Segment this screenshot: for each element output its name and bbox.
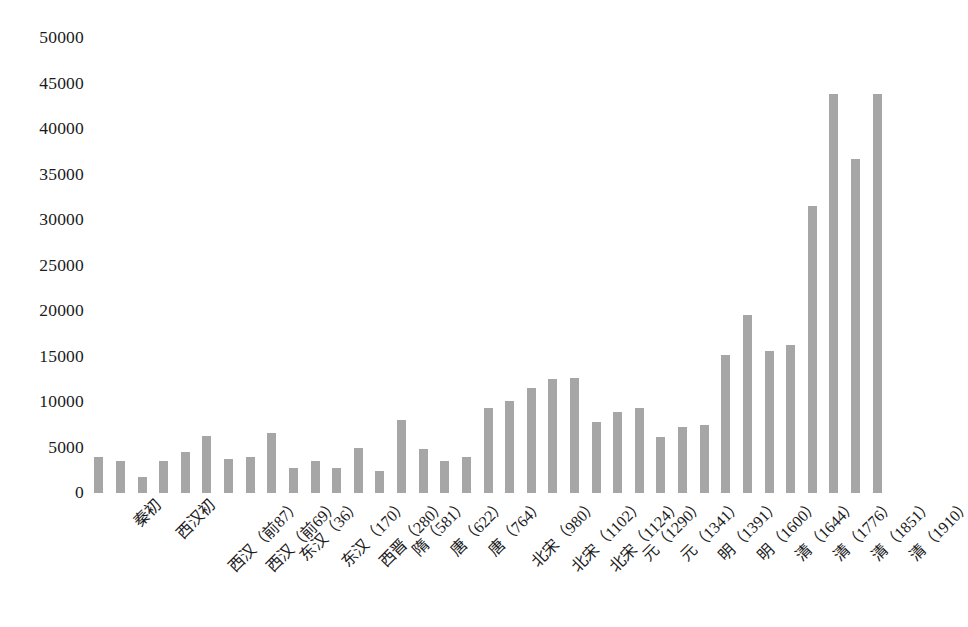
bar [505,401,514,493]
bar [311,461,320,493]
bar [527,388,536,493]
bar [613,412,622,493]
y-axis-tick-label: 40000 [12,120,84,138]
bar [462,457,471,493]
bar [484,408,493,493]
bar [656,437,665,493]
plot-area [88,38,888,493]
y-axis-tick-label: 45000 [12,75,84,93]
bars-layer [88,38,888,493]
bar [354,448,363,494]
y-axis-tick-label: 50000 [12,29,84,47]
bar [94,457,103,493]
bar [808,206,817,493]
bar [224,459,233,493]
bar [765,351,774,493]
bar [829,94,838,493]
bar [786,345,795,493]
x-axis-tick-text: 西汉初 [174,495,221,542]
y-axis-tick-label: 35000 [12,166,84,184]
bar [138,477,147,493]
bar [202,436,211,493]
bar [181,452,190,493]
y-axis: 5000045000400003500030000250002000015000… [12,0,84,627]
x-axis: 秦初西汉初西汉（前87）西汉（前69）东汉（36）东汉（170）西晋（280）隋… [88,495,888,625]
x-axis-tick-text: 秦初 [131,495,166,530]
bar [440,461,449,493]
bar [700,425,709,493]
bar [332,468,341,493]
x-axis-tick-label: 西汉初 [174,495,221,542]
bar [570,378,579,493]
bar [397,420,406,493]
bar [375,471,384,493]
bar [678,427,687,493]
bar [873,94,882,493]
y-axis-tick-label: 0 [12,484,84,502]
y-axis-tick-label: 15000 [12,348,84,366]
bar [289,468,298,493]
bar [267,433,276,493]
bar [246,457,255,493]
y-axis-tick-label: 20000 [12,302,84,320]
x-axis-tick-label: 秦初 [131,495,166,530]
bar [159,461,168,493]
bar [548,379,557,493]
y-axis-tick-label: 10000 [12,393,84,411]
bar [743,315,752,493]
y-axis-tick-label: 30000 [12,211,84,229]
bar [592,422,601,493]
y-axis-tick-label: 5000 [12,439,84,457]
bar [419,449,428,493]
bar [721,355,730,493]
bar [635,408,644,493]
bar [116,461,125,493]
bar [851,159,860,493]
y-axis-tick-label: 25000 [12,257,84,275]
